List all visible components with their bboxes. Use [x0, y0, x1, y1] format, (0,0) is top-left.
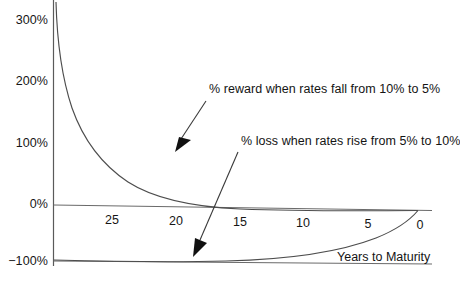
reward-annotation-leader-line: [181, 101, 206, 139]
x-tick-label-25: 25: [97, 213, 127, 227]
x-tick-label-20: 20: [161, 214, 191, 228]
loss-annotation-label: % loss when rates rise from 5% to 10%: [241, 134, 460, 148]
loss-annotation-arrowhead: [193, 238, 207, 257]
reward-curve: [56, 2, 418, 211]
x-axis-title: Years to Maturity: [337, 250, 430, 264]
y-tick-label-100: 100%: [2, 136, 48, 150]
x-tick-label-10: 10: [288, 216, 318, 230]
y-tick-label-minus-100: −100%: [0, 254, 48, 268]
reward-annotation-label: % reward when rates fall from 10% to 5%: [209, 82, 440, 96]
reward-annotation-arrowhead: [175, 137, 191, 152]
x-tick-label-0: 0: [405, 218, 435, 232]
y-tick-label-300: 300%: [2, 13, 48, 27]
x-tick-label-5: 5: [353, 217, 383, 231]
y-tick-label-200: 200%: [2, 74, 48, 88]
x-tick-label-15: 15: [225, 215, 255, 229]
y-tick-label-0: 0%: [2, 197, 48, 211]
